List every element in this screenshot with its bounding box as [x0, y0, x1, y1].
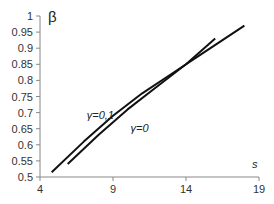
y-tick-label: 0.65	[12, 123, 33, 135]
y-tick-label: 1	[27, 10, 33, 22]
x-ticks: 491419	[37, 177, 265, 195]
y-axis-label: β	[48, 8, 57, 25]
series-group	[52, 26, 245, 173]
y-tick-label: 0.55	[12, 155, 33, 167]
x-tick-label: 4	[37, 183, 43, 195]
series-line-0	[52, 26, 245, 173]
x-tick-label: 14	[180, 183, 192, 195]
series-annotation: γ=0,1	[87, 109, 114, 121]
y-tick-label: 0.9	[18, 42, 33, 54]
y-tick-label: 0.85	[12, 58, 33, 70]
x-tick-label: 9	[110, 183, 116, 195]
y-tick-label: 0.5	[18, 171, 33, 183]
y-tick-label: 0.7	[18, 107, 33, 119]
x-axis-label: s	[252, 158, 258, 170]
chart: 0.50.550.60.650.70.750.80.850.90.951 491…	[0, 0, 274, 204]
y-tick-label: 0.95	[12, 26, 33, 38]
series-line-1	[68, 39, 216, 165]
x-tick-label: 19	[253, 183, 265, 195]
y-tick-label: 0.75	[12, 91, 33, 103]
y-ticks: 0.50.550.60.650.70.750.80.850.90.951	[12, 10, 40, 183]
series-annotation: γ=0	[131, 122, 150, 134]
y-tick-label: 0.8	[18, 74, 33, 86]
y-tick-label: 0.6	[18, 139, 33, 151]
